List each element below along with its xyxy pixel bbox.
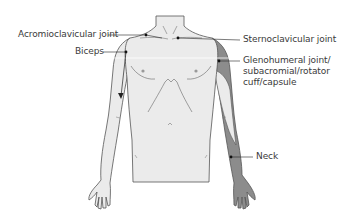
label-biceps: Biceps [75, 46, 104, 57]
right-nipple [194, 69, 197, 72]
torso [125, 16, 218, 182]
label-glenohumeral-joint: Glenohumeral joint/ subacromial/rotator … [243, 55, 338, 88]
left-nipple [141, 69, 144, 72]
label-acromioclavicular-joint: Acromioclavicular joint [18, 29, 118, 40]
left-arm [89, 38, 130, 209]
label-sternoclavicular-joint: Sternoclavicular joint [243, 34, 336, 45]
label-neck: Neck [256, 151, 278, 162]
